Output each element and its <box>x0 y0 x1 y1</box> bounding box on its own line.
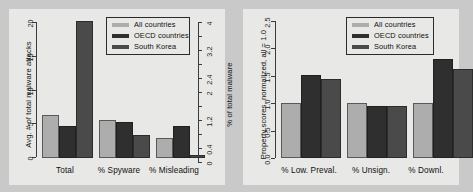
left-y2-tick-4.0 <box>198 22 202 23</box>
right-xticklabel-downl: % Downl. <box>400 166 452 175</box>
right-xticklabel-low-preval: % Low. Preval. <box>276 166 342 175</box>
bar-low-preval-all-countries <box>281 103 301 158</box>
left-legend: All countries OECD countries South Korea <box>106 17 190 55</box>
legend-label-south-korea: South Korea <box>374 42 416 51</box>
left-y2-ticklabel-3.2: 3.2 <box>205 39 214 65</box>
bar-misleading-south-korea <box>190 155 205 158</box>
bar-spyware-oecd-countries <box>116 122 133 158</box>
legend-swatch-all-countries <box>352 23 369 27</box>
right-y-tick-0.0 <box>271 158 275 159</box>
right-y-tick-2.0 <box>271 48 275 49</box>
left-y2-ticklabel-2: 2 <box>205 81 214 107</box>
left-y2-tick-2.8 <box>198 64 202 65</box>
left-y-axis-title: Avg. # of total malware attacks <box>24 25 33 165</box>
right-y-tick-1.0 <box>271 103 275 104</box>
legend-item-oecd-countries: OECD countries <box>347 30 433 41</box>
bar-misleading-oecd-countries <box>173 126 190 158</box>
left-y2-tick-0.8 <box>198 134 202 135</box>
right-legend: All countries OECD countries South Korea <box>346 17 434 55</box>
legend-swatch-all-countries <box>112 23 129 27</box>
legend-item-oecd-countries: OECD countries <box>107 30 189 41</box>
left-y2-tick-2.0 <box>198 92 202 93</box>
legend-swatch-oecd-countries <box>352 34 369 38</box>
legend-swatch-south-korea <box>352 45 369 49</box>
left-y2-tick-1.2 <box>198 120 202 121</box>
left-y2-tick-3.2 <box>198 50 202 51</box>
left-y2-tick-0.4 <box>198 148 202 149</box>
right-y-tick-2.5 <box>271 21 275 22</box>
bar-spyware-south-korea <box>133 135 150 158</box>
left-xticklabel-misleading: % Misleading <box>146 166 202 175</box>
left-chart-panel: 20 15 10 5 0 Avg. # of total malware att… <box>0 0 234 192</box>
left-y2-ticklabel-0: 0 <box>205 151 214 177</box>
legend-item-south-korea: South Korea <box>107 41 189 52</box>
right-y-tick-1.5 <box>271 76 275 77</box>
left-y2-ticklabel-4: 4 <box>205 11 214 37</box>
bar-total-oecd-countries <box>59 126 76 158</box>
left-y2-tick-2.4 <box>198 78 202 79</box>
bar-unsign-all-countries <box>347 103 367 158</box>
right-y-axis-line <box>275 21 276 158</box>
bar-unsign-oecd-countries <box>367 106 387 158</box>
left-y2-tick-0.0 <box>198 162 202 163</box>
right-y-axis-title: Property scores, normalized, all = 1.0 <box>259 5 268 185</box>
bar-downl-oecd-countries <box>433 59 453 158</box>
legend-swatch-south-korea <box>112 45 129 49</box>
left-y2-ticklabel-1.2: 1.2 <box>205 109 214 135</box>
left-xticklabel-spyware: % Spyware <box>94 166 144 175</box>
bar-downl-all-countries <box>413 103 433 158</box>
bar-unsign-south-korea <box>387 106 407 158</box>
legend-label-south-korea: South Korea <box>134 42 176 51</box>
bar-downl-south-korea <box>453 69 473 158</box>
bar-total-south-korea <box>76 21 93 158</box>
legend-label-oecd-countries: OECD countries <box>134 31 189 40</box>
legend-label-all-countries: All countries <box>134 20 176 29</box>
left-y2-tick-3.6 <box>198 36 202 37</box>
legend-label-oecd-countries: OECD countries <box>374 31 429 40</box>
legend-label-all-countries: All countries <box>374 20 416 29</box>
left-y2-tick-1.6 <box>198 106 202 107</box>
left-y-axis-line <box>36 22 37 157</box>
bar-total-all-countries <box>42 115 59 158</box>
bar-low-preval-oecd-countries <box>301 75 321 158</box>
legend-item-all-countries: All countries <box>107 19 189 30</box>
legend-swatch-oecd-countries <box>112 34 129 38</box>
right-chart-panel: 2.5 2.0 1.5 1.0 0.5 0.0 Property scores,… <box>234 0 468 192</box>
left-y2-axis-title: % of total malware <box>225 40 234 150</box>
legend-item-all-countries: All countries <box>347 19 433 30</box>
bar-low-preval-south-korea <box>321 79 341 159</box>
left-xticklabel-total: Total <box>45 166 85 175</box>
right-xticklabel-unsign: % Unsign. <box>344 166 398 175</box>
bar-misleading-all-countries <box>156 138 173 158</box>
right-y-tick-0.5 <box>271 131 275 132</box>
bar-spyware-all-countries <box>99 120 116 158</box>
legend-item-south-korea: South Korea <box>347 41 433 52</box>
